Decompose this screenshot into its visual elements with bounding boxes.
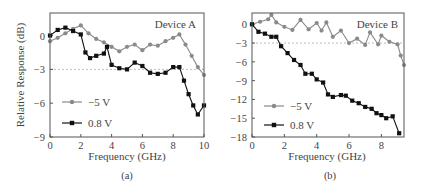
y-tick-label: −3 <box>34 64 45 75</box>
data-point-circle-icon <box>177 32 181 36</box>
data-point-circle-icon <box>86 31 90 35</box>
data-point-circle-icon <box>306 27 310 31</box>
data-point-square-icon <box>285 51 289 55</box>
data-point-circle-icon <box>102 40 106 44</box>
series-line-b-1 <box>252 24 399 133</box>
figure: 02468100−3−6−9 Device A −5 V 0.8 V Frequ… <box>0 0 423 193</box>
data-point-square-icon <box>279 44 283 48</box>
data-point-square-icon <box>331 95 335 99</box>
data-point-square-icon <box>102 51 106 55</box>
data-point-circle-icon <box>331 35 335 39</box>
data-point-square-icon <box>274 35 278 39</box>
x-tick-label: 0 <box>47 140 52 151</box>
x-tick-label: 8 <box>171 140 176 151</box>
data-point-square-icon <box>256 30 260 34</box>
data-point-square-icon <box>339 93 343 97</box>
data-point-square-icon <box>374 111 378 115</box>
data-point-square-icon <box>269 35 273 39</box>
x-axis-label-a: Frequency (GHz) <box>88 150 166 163</box>
y-tick-label: −18 <box>231 132 247 143</box>
data-point-circle-icon <box>266 17 270 21</box>
data-point-square-icon <box>391 114 395 118</box>
panel-b-chart: 024680−3−6−9−12−15−18 Device B −5 V 0.8 … <box>231 13 407 182</box>
data-point-square-icon <box>133 61 137 65</box>
y-tick-label: −6 <box>236 57 247 68</box>
data-point-circle-icon <box>183 42 187 46</box>
data-point-square-icon <box>303 72 307 76</box>
data-point-circle-icon <box>395 42 399 46</box>
data-point-circle-icon <box>133 42 137 46</box>
data-point-square-icon <box>110 63 114 67</box>
data-point-square-icon <box>94 54 98 58</box>
data-point-square-icon <box>357 101 361 105</box>
legend-a-square-marker-icon <box>70 121 74 125</box>
data-point-square-icon <box>263 32 267 36</box>
y-tick-label: −3 <box>236 38 247 49</box>
data-point-circle-icon <box>117 49 121 53</box>
y-tick-label: 0 <box>242 19 247 30</box>
y-tick-label: 0 <box>40 31 45 42</box>
caption-b: (b) <box>324 170 337 182</box>
panel-a-chart: 02468100−3−6−9 Device A −5 V 0.8 V Frequ… <box>14 13 209 182</box>
data-point-circle-icon <box>379 33 383 37</box>
device-b-label: Device B <box>357 18 398 30</box>
data-point-circle-icon <box>63 31 67 35</box>
data-point-square-icon <box>125 67 129 71</box>
data-point-square-icon <box>105 45 109 49</box>
data-point-square-icon <box>163 71 167 75</box>
data-point-square-icon <box>56 28 60 32</box>
data-point-square-icon <box>363 105 367 109</box>
data-point-square-icon <box>350 99 354 103</box>
data-point-square-icon <box>187 92 191 96</box>
data-point-circle-icon <box>298 18 302 22</box>
data-point-circle-icon <box>387 40 391 44</box>
legend-b-item-0p8v: 0.8 V <box>290 119 314 131</box>
caption-a: (a) <box>121 170 133 182</box>
plot-frame-b <box>252 13 404 137</box>
data-point-circle-icon <box>290 28 294 32</box>
data-point-circle-icon <box>339 28 343 32</box>
data-point-square-icon <box>79 32 83 36</box>
x-tick-label: 2 <box>78 140 83 151</box>
legend-a-item-neg5v: −5 V <box>88 96 110 108</box>
data-point-square-icon <box>148 71 152 75</box>
legend-b: −5 V 0.8 V <box>264 100 314 131</box>
legend-a: −5 V 0.8 V <box>62 96 112 129</box>
data-point-circle-icon <box>163 39 167 43</box>
y-tick-label: −12 <box>231 94 247 105</box>
data-point-square-icon <box>140 64 144 68</box>
data-point-square-icon <box>83 50 87 54</box>
data-point-square-icon <box>326 92 330 96</box>
x-tick-label: 2 <box>282 140 287 151</box>
y-tick-label: −6 <box>34 98 45 109</box>
data-point-circle-icon <box>94 37 98 41</box>
legend-b-item-neg5v: −5 V <box>290 100 312 112</box>
data-point-square-icon <box>310 72 314 76</box>
y-axis-label-a: Relative Response (dB) <box>14 22 27 127</box>
x-axis-label-b: Frequency (GHz) <box>288 150 366 163</box>
data-point-circle-icon <box>324 20 328 24</box>
y-tick-label: −15 <box>231 113 247 124</box>
legend-b-square-marker-icon <box>272 123 276 127</box>
legend-a-item-0p8v: 0.8 V <box>88 117 112 129</box>
data-point-square-icon <box>292 58 296 62</box>
data-point-circle-icon <box>319 28 323 32</box>
data-point-circle-icon <box>148 42 152 46</box>
data-point-square-icon <box>384 116 388 120</box>
data-point-square-icon <box>182 79 186 83</box>
legend-b-circle-marker-icon <box>272 104 276 108</box>
data-point-circle-icon <box>140 48 144 52</box>
x-tick-label: 0 <box>249 140 254 151</box>
data-point-square-icon <box>344 94 348 98</box>
data-point-circle-icon <box>347 41 351 45</box>
data-point-circle-icon <box>363 43 367 47</box>
data-point-circle-icon <box>56 36 60 40</box>
data-point-square-icon <box>191 103 195 107</box>
device-a-label: Device A <box>155 18 196 30</box>
data-point-circle-icon <box>125 45 129 49</box>
data-point-square-icon <box>63 26 67 30</box>
data-point-circle-icon <box>110 45 114 49</box>
data-point-circle-icon <box>258 20 262 24</box>
data-point-circle-icon <box>156 44 160 48</box>
data-point-square-icon <box>315 77 319 81</box>
